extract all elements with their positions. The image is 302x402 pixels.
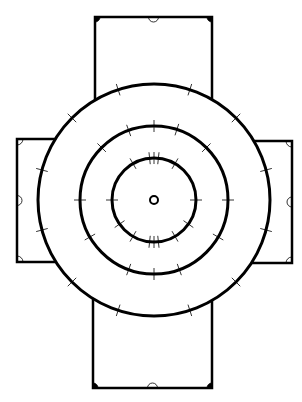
ring-plan-diagram xyxy=(0,0,302,402)
bottom-bay-corner-right xyxy=(207,383,212,388)
top-bay-corner-left xyxy=(95,17,100,22)
top-bay-corner-right xyxy=(207,17,212,22)
bottom-bay-corner-left xyxy=(93,383,98,388)
